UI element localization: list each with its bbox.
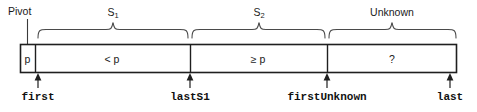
brace-unknown (329, 23, 456, 38)
brace-label-s2: S2 (253, 7, 264, 18)
cell-label-less-than-pivot: < p (105, 54, 120, 65)
index-label-last: last (437, 92, 463, 103)
brace-label-unknown: Unknown (370, 7, 414, 18)
brace-label-s1-main: S (107, 6, 114, 18)
cell-label-greater-equal-pivot: ≥ p (251, 54, 266, 65)
index-label-lastS1: lastS1 (170, 92, 210, 103)
brace-s1 (38, 23, 188, 38)
index-arrow-lastS1 (187, 73, 194, 88)
partition-invariant-diagram: Pivot S1 S2 Unknown p < p ≥ p ? first la… (0, 0, 477, 112)
brace-label-s1-sub: 1 (114, 11, 118, 20)
cell-label-pivot: p (25, 54, 31, 65)
index-label-first: first (21, 92, 54, 103)
index-arrow-firstUnknown (324, 73, 331, 88)
brace-s2 (192, 23, 325, 38)
index-arrow-first (35, 73, 42, 88)
index-arrow-last (447, 73, 454, 88)
brace-label-s2-main: S (253, 6, 260, 18)
cell-label-unknown: ? (389, 54, 395, 65)
brace-label-s1: S1 (107, 7, 118, 18)
brace-label-s2-sub: 2 (260, 11, 264, 20)
pivot-label: Pivot (8, 6, 31, 17)
index-label-firstUnknown: firstUnknown (287, 92, 366, 103)
